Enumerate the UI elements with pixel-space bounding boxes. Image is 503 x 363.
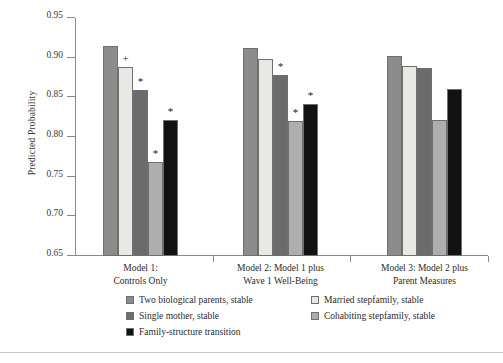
- legend-swatch: [126, 312, 134, 320]
- bar: [303, 104, 318, 256]
- bar: [148, 162, 163, 256]
- significance-marker: *: [133, 76, 148, 86]
- y-axis-line: [75, 18, 76, 256]
- y-tick-label: 0.90: [46, 50, 63, 60]
- legend-swatch: [311, 312, 319, 320]
- legend-label: Single mother, stable: [139, 311, 219, 321]
- y-tick-label: 0.85: [46, 89, 63, 99]
- significance-marker: +: [118, 53, 133, 63]
- y-tick-label: 0.65: [46, 248, 63, 258]
- legend-label: Cohabiting stepfamily, stable: [324, 311, 435, 321]
- bar: [103, 46, 118, 256]
- bar: [258, 59, 273, 256]
- category-label-line: Parent Measures: [340, 275, 503, 288]
- bar: [273, 75, 288, 256]
- legend-swatch: [126, 296, 134, 304]
- y-tick: 0.70: [67, 215, 75, 216]
- bar: [387, 56, 402, 256]
- bar: [243, 48, 258, 256]
- bar: [118, 67, 133, 256]
- bar: [432, 120, 447, 256]
- y-tick: 0.75: [67, 176, 75, 177]
- y-tick: 0.80: [67, 136, 75, 137]
- category-label-line: Model 3: Model 2 plus: [340, 262, 503, 275]
- legend-item: Married stepfamily, stable: [311, 295, 423, 305]
- significance-marker: *: [148, 148, 163, 158]
- y-tick-label: 0.80: [46, 129, 63, 139]
- figure: Predicted Probability 0.950.900.850.800.…: [0, 0, 503, 363]
- y-tick-label: 0.70: [46, 208, 63, 218]
- legend-label: Family-structure transition: [139, 327, 241, 337]
- significance-marker: *: [273, 61, 288, 71]
- y-tick: 0.90: [67, 57, 75, 58]
- y-axis-title: Predicted Probability: [27, 53, 37, 213]
- legend-item: Two biological parents, stable: [126, 295, 253, 305]
- bar: [447, 89, 462, 256]
- y-tick: 0.95: [67, 17, 75, 18]
- legend-label: Married stepfamily, stable: [324, 295, 423, 305]
- bar: [402, 66, 417, 256]
- significance-marker: *: [303, 90, 318, 100]
- legend-item: Family-structure transition: [126, 327, 241, 337]
- bar: [417, 68, 432, 256]
- y-tick: 0.65: [67, 255, 75, 256]
- bar: [133, 90, 148, 256]
- y-tick: 0.85: [67, 96, 75, 97]
- y-tick-label: 0.75: [46, 169, 63, 179]
- significance-marker: *: [288, 107, 303, 117]
- bar: [288, 121, 303, 256]
- significance-marker: *: [163, 106, 178, 116]
- legend-swatch: [311, 296, 319, 304]
- legend-item: Single mother, stable: [126, 311, 219, 321]
- y-tick-label: 0.95: [46, 10, 63, 20]
- bar: [163, 120, 178, 256]
- plot-area: 0.950.900.850.800.750.700.65 +******: [75, 18, 488, 256]
- bottom-divider: [0, 352, 503, 353]
- legend-item: Cohabiting stepfamily, stable: [311, 311, 435, 321]
- x-axis-category-label: Model 3: Model 2 plusParent Measures: [340, 262, 503, 287]
- legend-label: Two biological parents, stable: [139, 295, 253, 305]
- legend-swatch: [126, 328, 134, 336]
